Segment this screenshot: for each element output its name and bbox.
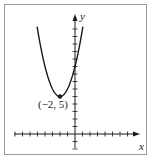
parabola-plot: (−2, 5)xy	[0, 0, 152, 162]
x-axis-arrow-icon	[133, 132, 140, 137]
x-axis-label: x	[138, 140, 144, 152]
parabola-curve	[37, 27, 83, 97]
vertex-label: (−2, 5)	[38, 98, 68, 111]
y-axis-arrow-icon	[73, 14, 78, 21]
y-axis-label: y	[79, 10, 85, 22]
